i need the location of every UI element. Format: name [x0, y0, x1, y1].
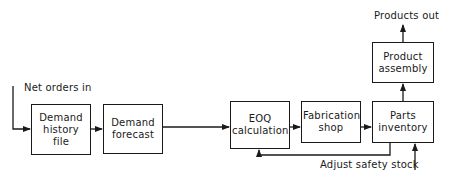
- product-assembly-node: Product assembly: [372, 42, 434, 83]
- node-label: Parts inventory: [378, 110, 428, 134]
- node-label: Fabrication shop: [303, 110, 359, 134]
- eoq-calculation-node: EOQ calculation: [230, 101, 290, 149]
- node-label: Product assembly: [378, 51, 428, 75]
- node-label: EOQ calculation: [232, 113, 288, 137]
- adjust-safety-stock-label: Adjust safety stock: [320, 159, 419, 170]
- products-out-label: Products out: [374, 10, 439, 21]
- fabrication-shop-node: Fabrication shop: [301, 101, 361, 143]
- demand-history-file-node: Demand history file: [31, 104, 91, 155]
- node-label: Demand history file: [39, 112, 83, 148]
- net-orders-in-label: Net orders in: [24, 82, 92, 93]
- parts-inventory-node: Parts inventory: [372, 101, 434, 143]
- node-label: Demand forecast: [108, 117, 158, 141]
- demand-forecast-node: Demand forecast: [103, 104, 163, 154]
